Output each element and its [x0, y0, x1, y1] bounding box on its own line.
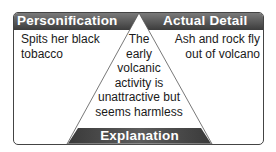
explanation-text: The early volcanic activity is unattract…	[89, 32, 189, 119]
explanation-line: seems harmless	[89, 105, 189, 120]
personification-heading: Personification	[17, 12, 118, 29]
explanation-line: The	[89, 32, 189, 47]
explanation-line: activity is	[89, 76, 189, 91]
explanation-line: volcanic	[89, 61, 189, 76]
explanation-line: early	[89, 47, 189, 62]
actual-detail-heading: Actual Detail	[163, 12, 247, 29]
explanation-heading: Explanation	[100, 127, 179, 144]
explanation-line: unattractive but	[89, 90, 189, 105]
